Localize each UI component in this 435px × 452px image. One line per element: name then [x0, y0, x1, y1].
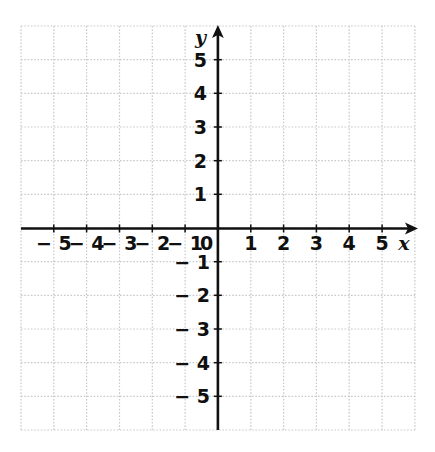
y-tick-label--3: − 3 [174, 318, 210, 340]
x-tick-label-1: 1 [244, 232, 257, 254]
coordinate-plane-svg: − 5 − 4 − 3 − 2 − 1 0 1 2 3 4 5 5 4 3 2 … [0, 0, 435, 452]
y-tick-label--5: − 5 [174, 385, 210, 407]
y-tick-label-5: 5 [194, 49, 207, 71]
y-tick-label-4: 4 [194, 82, 207, 104]
x-tick-label--3: − 3 [102, 232, 138, 254]
x-tick-label--2: − 2 [134, 232, 170, 254]
x-tick-label-3: 3 [310, 232, 323, 254]
y-tick-label--4: − 4 [174, 352, 210, 374]
x-axis-label: x [397, 232, 410, 254]
y-axis-label: y [194, 26, 208, 48]
coordinate-plane-figure: − 5 − 4 − 3 − 2 − 1 0 1 2 3 4 5 5 4 3 2 … [0, 0, 435, 452]
y-tick-label-2: 2 [194, 150, 207, 172]
x-tick-label--5: − 5 [36, 232, 72, 254]
y-tick-label--2: − 2 [174, 284, 210, 306]
x-tick-label-4: 4 [343, 232, 356, 254]
x-tick-label-2: 2 [277, 232, 290, 254]
y-tick-label-1: 1 [194, 183, 207, 205]
y-tick-label--1: − 1 [174, 251, 210, 273]
x-tick-label--4: − 4 [69, 232, 105, 254]
x-tick-label-5: 5 [375, 232, 388, 254]
y-tick-label-3: 3 [194, 116, 207, 138]
